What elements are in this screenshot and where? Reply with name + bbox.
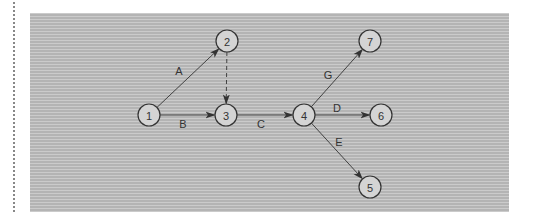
edge-label-a: A (175, 65, 183, 77)
node-7: 7 (359, 30, 381, 52)
node-2: 2 (216, 30, 238, 52)
node-label: 1 (146, 110, 152, 122)
edge-label-d: D (333, 102, 341, 114)
node-6: 6 (370, 104, 392, 126)
node-1: 1 (138, 104, 160, 126)
node-4: 4 (293, 104, 315, 126)
nodes-layer: 1234567 (138, 30, 392, 198)
edge-4-7 (311, 50, 362, 107)
edge-4-5 (311, 123, 362, 178)
node-label: 5 (367, 182, 373, 194)
network-diagram: ABCGDE 1234567 (0, 0, 533, 222)
edge-label-g: G (324, 69, 333, 81)
node-label: 2 (224, 36, 230, 48)
node-label: 3 (223, 110, 229, 122)
edge-label-e: E (335, 136, 342, 148)
node-label: 6 (378, 110, 384, 122)
edge-label-c: C (257, 118, 265, 130)
node-5: 5 (359, 176, 381, 198)
edge-2-3-dummy (226, 52, 227, 104)
edge-1-2 (157, 49, 219, 108)
node-label: 7 (367, 36, 373, 48)
node-3: 3 (215, 104, 237, 126)
node-label: 4 (301, 110, 307, 122)
edge-labels-layer: ABCGDE (175, 65, 342, 148)
edge-label-b: B (179, 118, 186, 130)
